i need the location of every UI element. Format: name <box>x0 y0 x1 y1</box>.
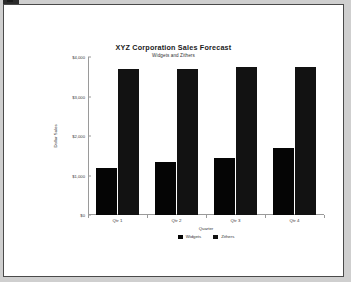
x-axis-tick-mark <box>147 215 148 218</box>
legend-label: Widgets <box>186 234 202 239</box>
x-axis-tick-mark <box>265 215 266 218</box>
y-axis-title: Dollar Sales <box>53 124 58 147</box>
bar-widgets-4 <box>273 148 294 215</box>
chart-legend: WidgetsZithers <box>88 234 324 239</box>
chart-title: XYZ Corporation Sales Forecast <box>10 43 337 52</box>
x-axis-tick-label: Qtr 2 <box>172 218 182 223</box>
y-axis-tick-label: $3,000 <box>72 94 88 99</box>
bar-zithers-1 <box>118 69 139 215</box>
x-axis-tick-label: Qtr 1 <box>113 218 123 223</box>
bar-zithers-4 <box>295 67 316 215</box>
legend-item-zithers[interactable]: Zithers <box>213 234 234 239</box>
x-axis-tick-mark <box>324 215 325 218</box>
legend-item-widgets[interactable]: Widgets <box>178 234 202 239</box>
x-axis-tick-label: Qtr 3 <box>231 218 241 223</box>
legend-swatch-icon <box>178 235 183 239</box>
bar-zithers-2 <box>177 69 198 215</box>
bar-series-group <box>88 57 324 215</box>
y-axis-tick-label: $2,000 <box>72 134 88 139</box>
bar-widgets-1 <box>96 168 117 215</box>
chart-frame: XYZ Corporation Sales Forecast Widgets a… <box>10 11 337 270</box>
bar-widgets-3 <box>214 158 235 215</box>
chart-canvas: XYZ Corporation Sales Forecast Widgets a… <box>10 11 337 270</box>
y-axis-tick-label: $0 <box>80 213 88 218</box>
legend-swatch-icon <box>213 235 218 239</box>
legend-label: Zithers <box>221 234 234 239</box>
plot-area: Dollar Sales $0$1,000$2,000$3,000$4,000 … <box>88 57 324 215</box>
bar-widgets-2 <box>155 162 176 215</box>
x-axis-tick-label: Qtr 4 <box>290 218 300 223</box>
y-axis-tick-label: $4,000 <box>72 55 88 60</box>
x-axis-tick-mark <box>88 215 89 218</box>
x-axis-title: Quarter <box>88 226 324 231</box>
y-axis-tick-label: $1,000 <box>72 173 88 178</box>
bar-zithers-3 <box>236 67 257 215</box>
x-axis-tick-mark <box>206 215 207 218</box>
page-sheet: XYZ Corporation Sales Forecast Widgets a… <box>3 4 344 277</box>
